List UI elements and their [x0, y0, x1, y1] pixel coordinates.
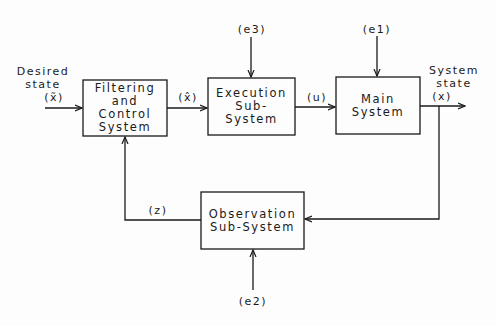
diagram-lines — [0, 0, 496, 326]
main-system-block-label: Main System — [336, 77, 420, 134]
u-label: (u) — [300, 91, 334, 104]
observation-block-label: Observation Sub-System — [201, 192, 304, 249]
system-state-label: System state (x) — [412, 64, 496, 103]
main-line-1: Main — [361, 93, 395, 106]
system-state-line-1: System — [412, 64, 496, 77]
main-line-2: System — [352, 106, 404, 119]
execution-line-3: System — [225, 113, 277, 126]
observation-line-2: Sub-System — [210, 221, 295, 234]
desired-state-symbol: (x̃) — [0, 91, 86, 104]
xhat-label: (x̂) — [168, 91, 208, 104]
block-diagram: Filtering and Control System Execution S… — [0, 0, 496, 326]
desired-state-line-2: state — [0, 78, 86, 91]
e2-label: (e2) — [233, 295, 273, 308]
filtering-block-label: Filtering and Control System — [83, 80, 167, 136]
system-state-symbol: (x) — [412, 90, 496, 103]
observation-line-1: Observation — [209, 208, 297, 221]
desired-state-label: Desired state (x̃) — [0, 65, 86, 104]
e3-label: (e3) — [232, 23, 272, 36]
desired-state-line-1: Desired — [0, 65, 86, 78]
filtering-line-4: System — [99, 121, 151, 134]
execution-block-label: Execution Sub- System — [208, 78, 295, 135]
z-label: (z) — [140, 204, 176, 217]
e1-label: (e1) — [357, 23, 397, 36]
system-state-line-2: state — [412, 77, 496, 90]
